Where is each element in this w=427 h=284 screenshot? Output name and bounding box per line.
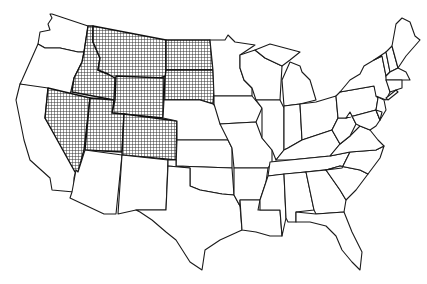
state-wyoming	[112, 76, 164, 118]
state-washington	[38, 14, 88, 52]
state-michigan-lower	[282, 62, 316, 106]
state-south-dakota	[164, 70, 214, 104]
state-maine	[392, 18, 420, 68]
state-montana	[93, 26, 166, 78]
state-florida	[296, 212, 362, 270]
state-north-dakota	[166, 40, 213, 70]
state-colorado	[122, 114, 177, 160]
us-map	[0, 0, 427, 284]
state-new-mexico	[118, 155, 168, 214]
state-kansas	[176, 140, 232, 168]
state-iowa	[214, 96, 262, 124]
